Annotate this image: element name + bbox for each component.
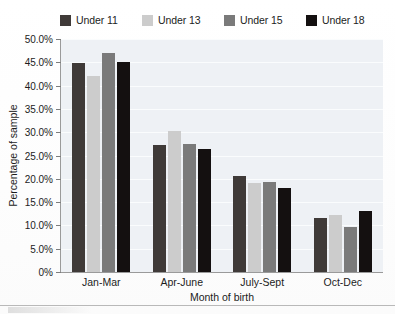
y-tick-label: 20.0% xyxy=(25,173,53,184)
y-tick-label: 5.0% xyxy=(30,243,53,254)
bar[interactable] xyxy=(183,144,196,272)
chart-legend: Under 11Under 13Under 15Under 18 xyxy=(60,11,390,29)
legend-swatch-icon xyxy=(60,15,71,26)
legend-swatch-icon xyxy=(224,15,235,26)
legend-item[interactable]: Under 11 xyxy=(60,14,142,26)
y-tick-label: 35.0% xyxy=(25,103,53,114)
bar[interactable] xyxy=(87,76,100,272)
bar[interactable] xyxy=(153,145,166,272)
y-tick-label: 50.0% xyxy=(25,34,53,45)
bar[interactable] xyxy=(344,227,357,272)
bar[interactable] xyxy=(329,215,342,272)
x-axis-labels: Jan-MarApr-JuneJuly-SeptOct-Dec xyxy=(61,276,383,288)
x-tick-label: Oct-Dec xyxy=(303,276,384,288)
bar[interactable] xyxy=(117,62,130,272)
y-tick-label: 25.0% xyxy=(25,150,53,161)
scan-artifact xyxy=(8,307,128,313)
legend-item[interactable]: Under 15 xyxy=(224,14,306,26)
bar-group xyxy=(222,39,303,272)
legend-item[interactable]: Under 18 xyxy=(306,14,388,26)
x-tick-label: Jan-Mar xyxy=(61,276,142,288)
legend-label: Under 15 xyxy=(240,14,282,26)
bar-group xyxy=(61,39,142,272)
bar[interactable] xyxy=(72,63,85,272)
bar-group xyxy=(303,39,384,272)
x-axis-line xyxy=(60,272,383,273)
legend-swatch-icon xyxy=(142,15,153,26)
plot-area: 50.0%45.0%40.0%35.0%30.0%25.0%20.0%15.0%… xyxy=(61,39,383,272)
bar[interactable] xyxy=(314,218,327,272)
y-tick-label: 40.0% xyxy=(25,80,53,91)
y-tick-label: 0% xyxy=(39,267,53,278)
y-axis-title: Percentage of sample xyxy=(6,39,19,272)
legend-label: Under 18 xyxy=(322,14,364,26)
bar-group xyxy=(142,39,223,272)
bar[interactable] xyxy=(198,149,211,272)
bar[interactable] xyxy=(248,183,261,272)
y-tick-label: 15.0% xyxy=(25,197,53,208)
bar[interactable] xyxy=(359,211,372,272)
bar[interactable] xyxy=(168,131,181,272)
page-divider xyxy=(0,305,395,306)
bar[interactable] xyxy=(278,188,291,272)
x-tick-label: Apr-June xyxy=(142,276,223,288)
legend-swatch-icon xyxy=(306,15,317,26)
y-tick-label: 30.0% xyxy=(25,127,53,138)
x-tick-label: July-Sept xyxy=(222,276,303,288)
bar[interactable] xyxy=(102,53,115,272)
bar[interactable] xyxy=(233,176,246,272)
legend-label: Under 13 xyxy=(158,14,200,26)
y-tick-label: 45.0% xyxy=(25,57,53,68)
bar[interactable] xyxy=(263,182,276,272)
x-axis-title: Month of birth xyxy=(61,291,383,303)
y-tick-label: 10.0% xyxy=(25,220,53,231)
bar-groups xyxy=(61,39,383,272)
chart-page: Under 11Under 13Under 15Under 18 Percent… xyxy=(0,0,395,314)
y-tick xyxy=(56,272,61,273)
legend-label: Under 11 xyxy=(76,14,118,26)
legend-item[interactable]: Under 13 xyxy=(142,14,224,26)
